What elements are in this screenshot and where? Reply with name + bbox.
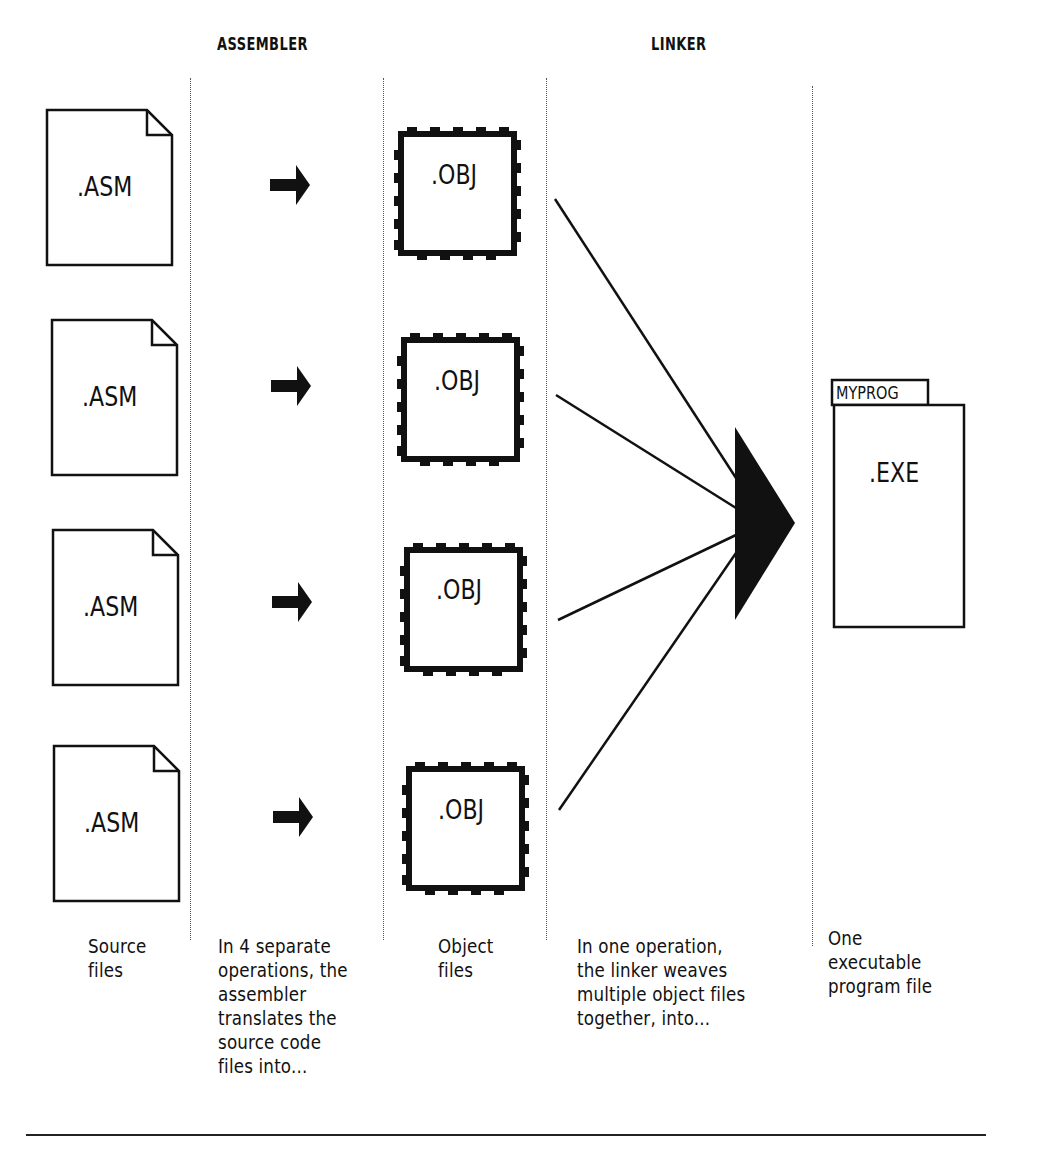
object-file-label-1: .OBJ [431, 160, 477, 190]
caption-linker: In one operation, the linker weaves mult… [577, 934, 745, 1030]
caption-assembler: In 4 separate operations, the assembler … [218, 934, 348, 1078]
right-arrow-icon-1 [270, 165, 310, 205]
bottom-rule [26, 1134, 986, 1136]
source-file-label-4: .ASM [84, 808, 139, 838]
object-file-icon-4 [402, 762, 529, 895]
object-file-label-3: .OBJ [436, 575, 482, 605]
caption-object-files: Object files [438, 934, 494, 982]
executable-file-label: .EXE [869, 458, 919, 488]
caption-executable: One executable program file [828, 926, 932, 998]
caption-source-files: Source files [88, 934, 146, 982]
object-file-icon-1 [394, 127, 521, 260]
executable-file-icon [832, 380, 964, 627]
executable-tab-label: MYPROG [836, 383, 899, 403]
right-arrow-icon-3 [272, 582, 312, 622]
right-arrow-icon-2 [271, 366, 311, 406]
source-file-label-1: .ASM [77, 172, 132, 202]
source-file-label-3: .ASM [83, 592, 138, 622]
right-arrow-icon-4 [273, 797, 313, 837]
source-file-label-2: .ASM [82, 382, 137, 412]
object-file-icon-2 [397, 333, 524, 466]
object-file-label-4: .OBJ [438, 795, 484, 825]
linker-triangle-icon [735, 427, 795, 620]
object-file-label-2: .OBJ [434, 366, 480, 396]
object-file-icon-3 [400, 543, 527, 676]
linker-lines [555, 199, 736, 810]
